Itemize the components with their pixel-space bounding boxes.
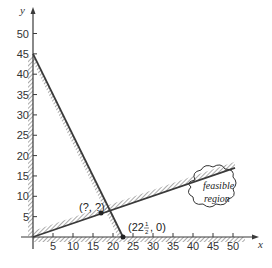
tick-labels: 51015202530354045505101520253035404550 [17,28,239,253]
x-tick-label: 35 [167,240,179,252]
intercept-label: (22 1 2 , 0) [128,221,166,235]
y-tick-label: 5 [23,211,29,223]
x-tick-label: 10 [67,240,79,252]
svg-text:1: 1 [145,221,149,227]
intercept-point [121,235,126,240]
x-tick-label: 5 [50,240,56,252]
y-tick-label: 30 [17,109,29,121]
y-tick-label: 25 [17,129,29,141]
x-axis-label: x [257,238,263,250]
intersection-label: (?, ?) [79,201,105,213]
cloud-label-line1: feasible [203,180,235,191]
x-tick-label: 15 [87,240,99,252]
hatch-shading [28,54,245,242]
svg-text:(22: (22 [128,221,144,233]
y-axis-hatch [28,54,33,237]
y-axis-arrow-icon [31,7,36,14]
y-tick-label: 20 [17,150,29,162]
y-tick-label: 40 [17,68,29,80]
y-tick-label: 35 [17,89,29,101]
x-tick-label: 30 [147,240,159,252]
y-tick-label: 45 [17,48,29,60]
x-tick-label: 50 [227,240,239,252]
svg-text:2: 2 [145,229,149,235]
axes [21,7,259,249]
constraint-lines [33,54,235,237]
svg-text:, 0): , 0) [150,221,166,233]
x-tick-label: 45 [207,240,219,252]
cloud-label-line2: region [204,193,230,204]
y-tick-label: 50 [17,28,29,40]
x-tick-label: 20 [107,240,119,252]
y-tick-label: 10 [17,190,29,202]
x-tick-label: 25 [127,240,139,252]
constraint-line-1 [33,54,123,237]
y-axis-label: y [19,4,25,16]
x-tick-label: 40 [187,240,199,252]
y-tick-label: 15 [17,170,29,182]
feasible-region-diagram: 51015202530354045505101520253035404550 y… [0,0,272,268]
